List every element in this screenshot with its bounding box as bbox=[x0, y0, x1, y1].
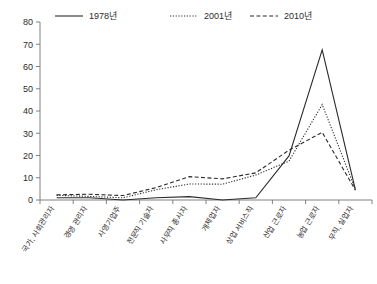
chart-container: 1978년2001년2010년 01020304050607080 국가, 사회… bbox=[0, 0, 377, 284]
x-axis-category-label: 상업 서비스직 bbox=[224, 204, 256, 247]
x-axis-category-label: 개체업자 bbox=[199, 204, 222, 233]
series-line-2001년 bbox=[57, 105, 356, 198]
line-chart: 1978년2001년2010년 01020304050607080 국가, 사회… bbox=[0, 0, 377, 284]
legend-label-1978년: 1978년 bbox=[89, 11, 117, 21]
y-axis-tick-label: 50 bbox=[23, 84, 33, 94]
y-axis-tick-label: 30 bbox=[23, 129, 33, 139]
y-axis-tick-label: 0 bbox=[28, 195, 33, 205]
chart-series-group bbox=[57, 50, 356, 200]
x-axis-category-label: 전문직 기술자 bbox=[124, 204, 156, 247]
y-axis-tick-label: 60 bbox=[23, 62, 33, 72]
x-axis-category-label: 무직, 실업자 bbox=[326, 204, 355, 243]
x-axis-category-label: 사무직 종사자 bbox=[157, 204, 189, 247]
y-axis-tick-label: 70 bbox=[23, 40, 33, 50]
legend-label-2001년: 2001년 bbox=[204, 11, 232, 21]
y-axis-tick-label: 20 bbox=[23, 151, 33, 161]
x-axis-category-label: 국가, 사회관리자 bbox=[20, 204, 57, 254]
series-line-2010년 bbox=[57, 132, 356, 195]
y-axis-tick-label: 80 bbox=[23, 17, 33, 27]
x-axis-category-label: 사영기업주 bbox=[96, 204, 123, 239]
x-axis-category-label: 경영 관리자 bbox=[61, 204, 89, 241]
x-axis-category-label: 농업 근로자 bbox=[295, 204, 322, 240]
y-axis: 01020304050607080 bbox=[23, 17, 40, 205]
y-axis-tick-label: 40 bbox=[23, 106, 33, 116]
x-axis-category-labels: 국가, 사회관리자경영 관리자사영기업주전문직 기술자사무직 종사자개체업자상업… bbox=[20, 204, 355, 254]
x-axis-category-label: 산업 근로자 bbox=[261, 204, 289, 241]
legend-label-2010년: 2010년 bbox=[284, 11, 312, 21]
y-axis-tick-label: 10 bbox=[23, 173, 33, 183]
x-axis bbox=[40, 200, 372, 204]
chart-legend: 1978년2001년2010년 bbox=[55, 11, 312, 21]
